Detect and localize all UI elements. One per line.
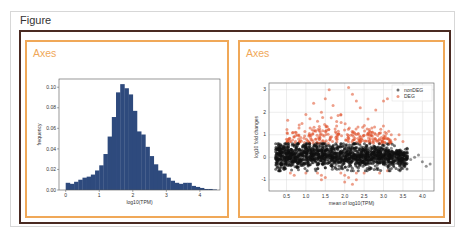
svg-text:0.06: 0.06 [46, 125, 56, 131]
svg-text:DEG: DEG [404, 93, 415, 99]
histogram-bar [103, 154, 107, 190]
histogram-bar [196, 187, 200, 190]
svg-text:1.0: 1.0 [302, 193, 309, 199]
histogram-bar [141, 135, 145, 191]
svg-text:0: 0 [64, 192, 67, 198]
histogram-bar [183, 183, 187, 190]
svg-text:mean of log10(TPM): mean of log10(TPM) [329, 200, 375, 206]
histogram-bar [179, 184, 183, 190]
svg-text:4: 4 [198, 192, 201, 198]
svg-text:0.02: 0.02 [46, 166, 56, 172]
svg-text:2.5: 2.5 [361, 193, 368, 199]
histogram-bar [108, 137, 112, 190]
histogram-bar [95, 170, 99, 190]
histogram-bar [74, 182, 78, 190]
figure-title: Figure [20, 14, 51, 26]
svg-text:0.10: 0.10 [46, 84, 56, 90]
histogram-chart: 012340.000.020.040.060.080.10log10(TPM)f… [27, 42, 231, 220]
svg-text:2: 2 [131, 192, 134, 198]
svg-text:0: 0 [263, 154, 266, 160]
svg-text:2.0: 2.0 [341, 193, 348, 199]
svg-text:-1: -1 [262, 176, 267, 182]
svg-text:4.0: 4.0 [419, 193, 426, 199]
histogram-bar [171, 181, 175, 190]
histogram-bar [200, 188, 204, 190]
histogram-bar [87, 177, 91, 190]
histogram-bar [99, 165, 103, 190]
histogram-bar [82, 178, 86, 190]
svg-text:3.0: 3.0 [380, 193, 387, 199]
svg-text:frequency: frequency [36, 123, 42, 145]
histogram-bar [145, 147, 149, 190]
svg-text:1: 1 [263, 131, 266, 137]
histogram-bar [70, 184, 74, 190]
histogram-bar [112, 117, 116, 190]
histogram-bar [166, 178, 170, 190]
histogram-bar [91, 175, 95, 190]
axes-histogram-panel[interactable]: Axes 012340.000.020.040.060.080.10log10(… [25, 40, 229, 218]
svg-text:log10(TPM): log10(TPM) [126, 199, 152, 205]
svg-text:1: 1 [98, 192, 101, 198]
histogram-bar [187, 183, 191, 190]
histogram-bar [150, 156, 154, 190]
histogram-bar [158, 170, 162, 190]
svg-text:nonDEG: nonDEG [404, 87, 423, 93]
histogram-bar [66, 183, 70, 190]
svg-text:0.5: 0.5 [283, 193, 290, 199]
chart-legend: nonDEGDEG [392, 85, 432, 101]
scatter-chart: 0.51.01.52.02.53.03.54.0-10123mean of lo… [240, 42, 447, 220]
svg-text:3: 3 [165, 192, 168, 198]
axes-scatter-panel[interactable]: Axes 0.51.01.52.02.53.03.54.0-10123mean … [238, 40, 445, 218]
histogram-bar [175, 183, 179, 190]
histogram-bar [137, 131, 141, 190]
histogram-bar [129, 94, 133, 190]
svg-text:0.08: 0.08 [46, 104, 56, 110]
svg-text:1.5: 1.5 [322, 193, 329, 199]
svg-text:3: 3 [263, 86, 266, 92]
svg-text:0.00: 0.00 [46, 187, 56, 193]
histogram-bar [133, 111, 137, 190]
svg-text:0.04: 0.04 [46, 146, 56, 152]
histogram-bar [124, 88, 128, 190]
histogram-bar [162, 174, 166, 190]
histogram-bar [120, 84, 124, 190]
histogram-bar [154, 164, 158, 190]
histogram-bar [116, 92, 120, 190]
svg-text:3.5: 3.5 [399, 193, 406, 199]
histogram-bar [191, 186, 195, 190]
svg-text:log10 fold changes: log10 fold changes [253, 116, 259, 158]
histogram-bar [78, 180, 82, 190]
svg-text:2: 2 [263, 109, 266, 115]
